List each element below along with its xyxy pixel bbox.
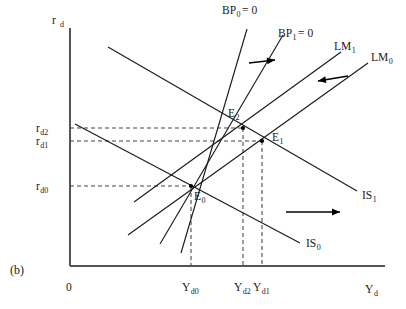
curve-label-is0-main: IS — [306, 237, 316, 249]
y-axis-label-sub: d — [60, 20, 64, 29]
equilibrium-label-e_1-main: E — [272, 131, 279, 143]
x-tick-label-y_d2-sub: d2 — [243, 287, 251, 296]
x-tick-label-y_d2: Yd2 — [234, 281, 251, 296]
axis-label-x: Y d — [365, 283, 378, 298]
y-tick-label-r_d0: rd0 — [36, 180, 48, 195]
x-tick-label-y_d1: Yd1 — [253, 281, 270, 296]
curve-label-lm0-main: LM — [371, 51, 388, 63]
panel-label: (b) — [10, 263, 24, 277]
curve-lm-1 — [134, 52, 341, 202]
origin-label: 0 — [66, 281, 72, 293]
curve-label-lm1: LM1 — [334, 40, 356, 55]
equilibrium-point-e_2 — [241, 126, 245, 130]
guide-lines-group — [70, 128, 262, 266]
is-lm-bp-figure: IS0IS1LM0LM1BP0 = 0BP1 = 0E0E1E2rd2rd1rd… — [0, 0, 406, 309]
curve-label-lm0-sub: 0 — [389, 57, 393, 66]
lm-shift-arrow-head — [318, 76, 326, 83]
is-shift-arrow-head — [332, 209, 340, 216]
is-lm-bp-diagram: IS0IS1LM0LM1BP0 = 0BP1 = 0E0E1E2rd2rd1rd… — [0, 0, 406, 309]
curve-label-bp0-sub: 0 — [237, 10, 241, 19]
axis-label-y: r d — [52, 14, 64, 29]
equilibrium-label-e_1: E1 — [272, 131, 284, 146]
x-tick-label-y_d2-main: Y — [234, 281, 243, 293]
curve-bp-1-0 — [160, 35, 283, 244]
y-axis-label-main: r — [52, 14, 56, 26]
curves-group — [75, 29, 368, 253]
curve-label-bp1-eq: = 0 — [298, 27, 313, 39]
y-tick-label-r_d1: rd1 — [36, 135, 48, 150]
curve-label-bp0-eq: = 0 — [242, 4, 257, 16]
curve-label-is1-sub: 1 — [373, 195, 377, 204]
axes-group — [70, 28, 385, 266]
x-tick-label-y_d0-sub: d0 — [191, 287, 199, 296]
curve-label-bp0-main: BP — [222, 4, 236, 16]
y-tick-label-r_d1-sub: d1 — [40, 141, 48, 150]
curve-label-bp1-sub: 1 — [293, 33, 297, 42]
x-axis-label-sub: d — [374, 289, 378, 298]
equilibrium-label-e_1-sub: 1 — [280, 137, 284, 146]
x-tick-label-y_d0: Yd0 — [182, 281, 199, 296]
curve-label-is1: IS1 — [362, 189, 377, 204]
equilibrium-point-e_1 — [260, 139, 264, 143]
curve-label-lm0: LM0 — [371, 51, 393, 66]
curve-label-bp0: BP0 = 0 — [222, 4, 257, 19]
x-tick-label-y_d1-sub: d1 — [262, 287, 270, 296]
curve-is-0 — [75, 124, 300, 243]
equilibrium-point-e_0 — [189, 184, 193, 188]
equilibrium-label-e_0-sub: 0 — [202, 196, 206, 205]
equilibrium-label-e_2-main: E — [228, 107, 235, 119]
x-tick-label-y_d0-main: Y — [182, 281, 191, 293]
equilibrium-label-e_0-main: E — [194, 190, 201, 202]
equilibrium-label-e_2-sub: 2 — [236, 113, 240, 122]
curve-label-lm1-main: LM — [334, 40, 351, 52]
curve-label-is1-main: IS — [362, 189, 372, 201]
curve-label-bp1: BP1 = 0 — [278, 27, 313, 42]
curve-label-is0: IS0 — [306, 237, 321, 252]
x-axis-label-main: Y — [365, 283, 374, 295]
curve-is-1 — [108, 47, 357, 191]
curve-label-is0-sub: 0 — [317, 243, 321, 252]
y-tick-label-r_d0-sub: d0 — [40, 186, 48, 195]
y-tick-label-r_d2-sub: d2 — [40, 128, 48, 137]
labels-group: IS0IS1LM0LM1BP0 = 0BP1 = 0E0E1E2rd2rd1rd… — [36, 4, 393, 296]
x-tick-label-y_d1-main: Y — [253, 281, 262, 293]
curve-label-bp1-main: BP — [278, 27, 292, 39]
curve-label-lm1-sub: 1 — [352, 46, 356, 55]
